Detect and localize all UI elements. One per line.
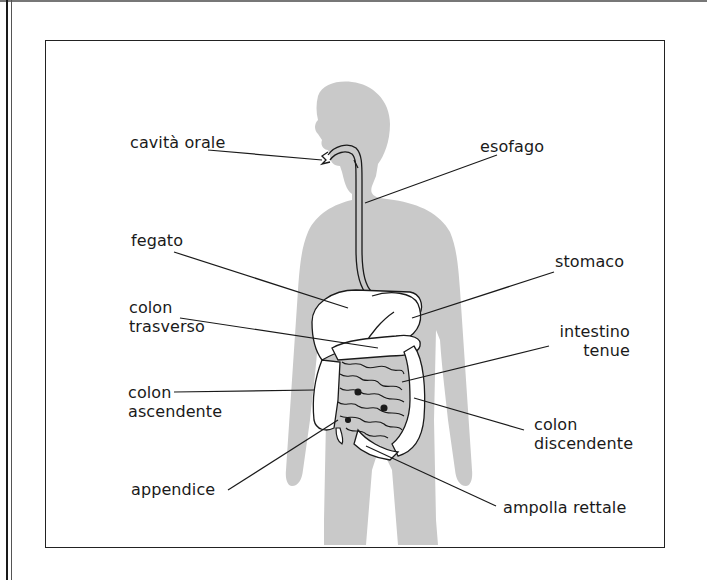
label-colon-discendente-line1: colon xyxy=(534,415,577,435)
label-esofago: esofago xyxy=(480,137,544,157)
label-colon-trasverso-line1: colon xyxy=(129,298,172,318)
label-colon-ascendente-line1: colon xyxy=(128,383,171,403)
leader-esofago xyxy=(365,155,497,203)
label-ampolla-rettale: ampolla rettale xyxy=(503,498,626,518)
leader-appendice xyxy=(228,420,338,490)
label-intestino-tenue-line2: tenue xyxy=(555,341,630,361)
label-colon-ascendente-line2: ascendente xyxy=(128,402,222,422)
label-fegato: fegato xyxy=(131,231,183,251)
label-stomaco: stomaco xyxy=(555,252,624,272)
label-colon-trasverso-line2: trasverso xyxy=(129,317,205,337)
label-colon-discendente-line2: discendente xyxy=(534,434,633,454)
digestive-system-diagram xyxy=(0,0,707,580)
label-cavita-orale: cavità orale xyxy=(130,133,225,153)
label-intestino-tenue-line1: intestino xyxy=(555,322,630,342)
label-appendice: appendice xyxy=(131,480,215,500)
